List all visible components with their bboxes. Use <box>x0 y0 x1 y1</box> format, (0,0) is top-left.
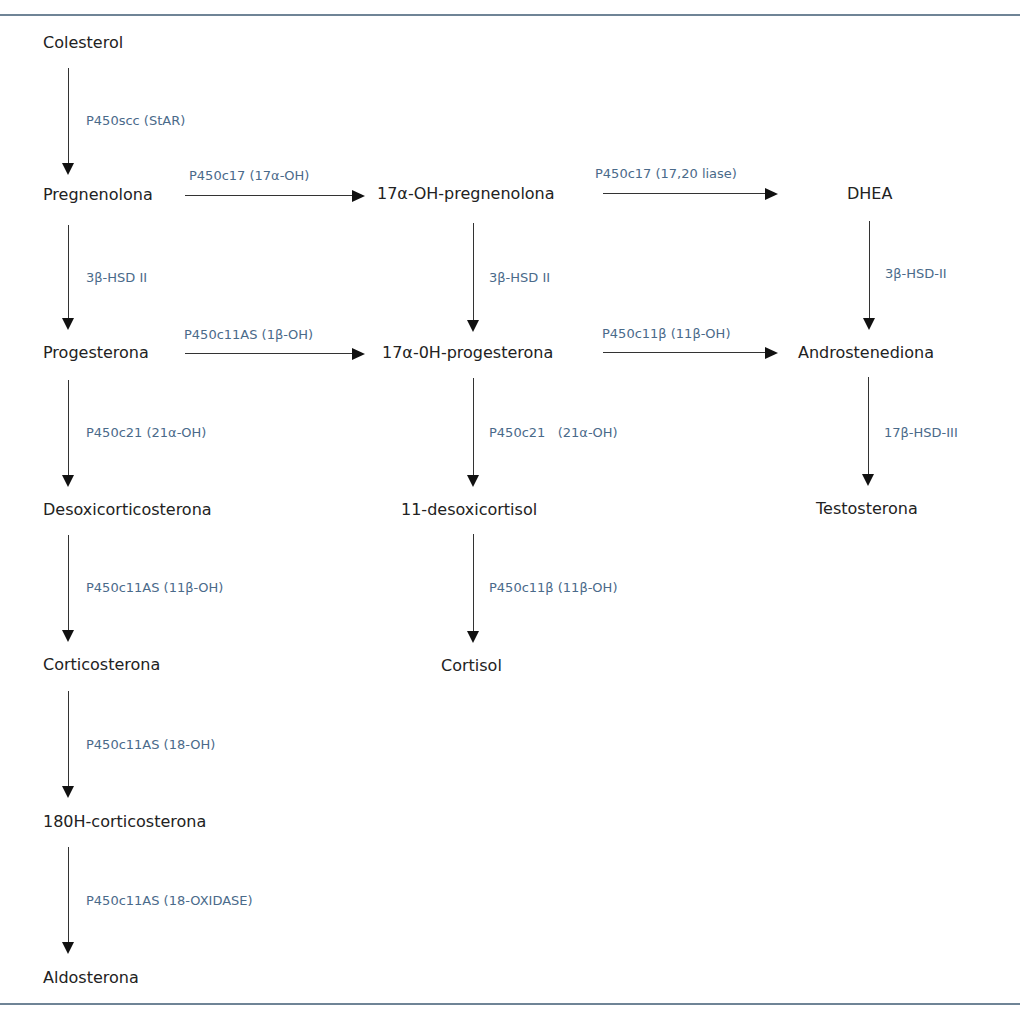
node-cortisol: Cortisol <box>441 656 502 676</box>
node-18oh-corticosterona: 180H-corticosterona <box>43 812 206 832</box>
node-testosterona: Testosterona <box>816 499 918 519</box>
node-colesterol: Colesterol <box>43 33 123 53</box>
node-pregnenolona: Pregnenolona <box>43 185 153 205</box>
arrow-head-down-icon <box>62 163 74 175</box>
node-17oh-progesterona: 17α-0H-progesterona <box>382 343 553 363</box>
enzyme-label: P450c11β (11β-OH) <box>489 580 617 596</box>
enzyme-label: P450c11AS (18-OH) <box>86 737 215 753</box>
arrow-shaft <box>68 380 69 478</box>
arrow-shaft <box>68 225 69 321</box>
node-corticosterona: Corticosterona <box>43 655 160 675</box>
arrow-head-down-icon <box>467 320 479 332</box>
node-androstenediona: Androstenediona <box>798 343 934 363</box>
enzyme-label: 3β-HSD-II <box>885 266 947 282</box>
arrow-shaft <box>473 378 474 478</box>
arrow-shaft <box>473 534 474 634</box>
bottom-rule <box>0 1003 1020 1005</box>
arrow-head-right-icon <box>765 347 778 359</box>
arrow-head-down-icon <box>62 318 74 330</box>
node-11-desoxicortisol: 11-desoxicortisol <box>401 500 537 520</box>
node-progesterona: Progesterona <box>43 343 149 363</box>
arrow-shaft <box>68 691 69 789</box>
node-dhea: DHEA <box>847 184 892 204</box>
arrow-shaft <box>603 352 768 353</box>
enzyme-label: P450c21 (21α-OH) <box>86 425 206 441</box>
arrow-shaft <box>603 193 768 194</box>
arrow-head-down-icon <box>467 631 479 643</box>
arrow-head-down-icon <box>62 786 74 798</box>
enzyme-label: 17β-HSD-III <box>884 425 958 441</box>
arrow-head-right-icon <box>765 188 778 200</box>
top-rule <box>0 14 1020 16</box>
node-17oh-pregnenolona: 17α-OH-pregnenolona <box>377 184 555 204</box>
arrow-shaft <box>869 221 870 321</box>
enzyme-label: 3β-HSD II <box>489 270 550 286</box>
arrow-shaft <box>68 535 69 633</box>
node-aldosterona: Aldosterona <box>43 968 139 988</box>
node-desoxicorticosterona: Desoxicorticosterona <box>43 500 212 520</box>
enzyme-label: P450c17 (17,20 liase) <box>595 166 737 182</box>
enzyme-label: P450c17 (17α-OH) <box>189 168 309 184</box>
arrow-shaft <box>68 847 69 945</box>
enzyme-label: P450c11AS (11β-OH) <box>86 580 223 596</box>
arrow-head-down-icon <box>62 942 74 954</box>
enzyme-label: 3β-HSD II <box>86 270 147 286</box>
arrow-head-down-icon <box>862 474 874 486</box>
arrow-shaft <box>185 195 355 196</box>
arrow-head-right-icon <box>352 190 365 202</box>
arrow-shaft <box>185 353 355 354</box>
arrow-head-down-icon <box>62 475 74 487</box>
arrow-head-down-icon <box>863 318 875 330</box>
enzyme-label: P450c21 (21α-OH) <box>489 425 618 441</box>
enzyme-label: P450c11AS (1β-OH) <box>184 327 313 343</box>
enzyme-label: P450c11β (11β-OH) <box>602 326 730 342</box>
arrow-head-down-icon <box>62 630 74 642</box>
arrow-head-down-icon <box>467 475 479 487</box>
arrow-shaft <box>68 68 69 166</box>
arrow-shaft <box>868 377 869 477</box>
arrow-head-right-icon <box>352 348 365 360</box>
arrow-shaft <box>473 223 474 323</box>
enzyme-label: P450scc (StAR) <box>86 113 185 129</box>
enzyme-label: P450c11AS (18-OXIDASE) <box>86 893 253 909</box>
